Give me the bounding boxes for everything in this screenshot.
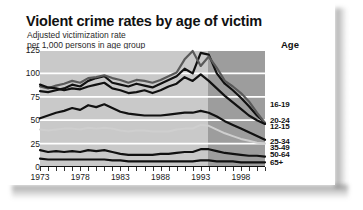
chart-screenshot: Violent crime rates by age of victim Adj… — [0, 0, 363, 210]
chart-title: Violent crime rates by age of victim — [26, 13, 262, 29]
x-tick — [185, 167, 186, 171]
card-shadow-bottom — [12, 185, 348, 199]
x-tick — [145, 167, 146, 171]
x-tick — [249, 167, 250, 171]
x-tick — [128, 167, 129, 171]
x-tick — [80, 167, 81, 171]
x-tick-label: 1983 — [111, 172, 130, 182]
x-tick — [136, 167, 137, 171]
series-line-35-49 — [40, 125, 265, 144]
legend-item-16-19: 16-19 — [270, 100, 289, 109]
plot-area — [40, 50, 265, 167]
x-tick-label: 1998 — [231, 172, 250, 182]
x-tick — [153, 167, 154, 171]
x-tick — [64, 167, 65, 171]
y-tick-label: 75 — [31, 92, 40, 102]
x-tick-label: 1993 — [191, 172, 210, 182]
series-lines — [40, 50, 265, 167]
x-tick-label: 1988 — [151, 172, 170, 182]
chart-subtitle: Adjusted victimization rate per 1,000 pe… — [27, 31, 145, 50]
legend-item-65plus: 65+ — [270, 158, 283, 167]
y-tick-label: 25 — [31, 139, 40, 149]
x-tick — [40, 167, 41, 171]
x-tick — [257, 167, 258, 171]
x-tick — [48, 167, 49, 171]
legend-title: Age — [281, 39, 299, 50]
x-tick — [161, 167, 162, 171]
chart-card: Violent crime rates by age of victim Adj… — [4, 2, 335, 185]
x-tick — [88, 167, 89, 171]
x-tick-label: 1973 — [31, 172, 50, 182]
card-shadow-right — [335, 8, 347, 188]
y-tick-label: 50 — [31, 115, 40, 125]
x-tick — [241, 167, 242, 171]
x-tick — [104, 167, 105, 171]
x-axis-labels: 197319781983198819931998 — [4, 172, 304, 184]
chart-subtitle-line2: per 1,000 persons in age group — [27, 41, 145, 51]
x-tick — [177, 167, 178, 171]
x-tick — [265, 167, 266, 171]
x-tick — [217, 167, 218, 171]
x-tick — [120, 167, 121, 171]
x-tick-label: 1978 — [71, 172, 90, 182]
y-tick-label: 100 — [26, 68, 40, 78]
series-line-65plus — [40, 159, 265, 163]
x-tick — [72, 167, 73, 171]
legend-item-12-15: 12-15 — [270, 122, 289, 131]
y-axis-labels: 0255075100125 — [18, 43, 40, 174]
x-tick — [96, 167, 97, 171]
x-tick — [193, 167, 194, 171]
series-line-50-64 — [40, 149, 265, 156]
x-tick — [112, 167, 113, 171]
x-tick — [56, 167, 57, 171]
x-tick — [209, 167, 210, 171]
y-tick-label: 125 — [26, 45, 40, 55]
x-tick — [201, 167, 202, 171]
x-tick — [169, 167, 170, 171]
x-tick — [225, 167, 226, 171]
x-tick — [233, 167, 234, 171]
